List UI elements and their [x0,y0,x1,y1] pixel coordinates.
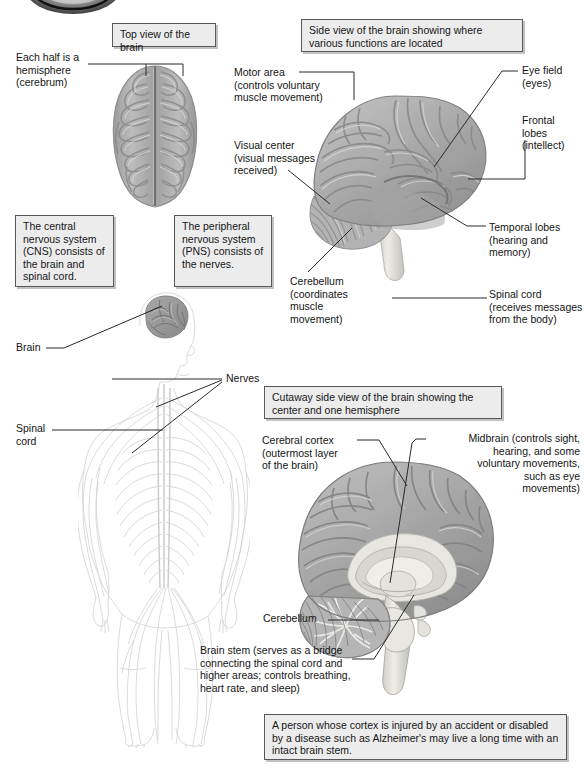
label-brain-stem: Brain stem (serves as a bridge connectin… [200,644,380,694]
leader-brain-body [46,304,162,350]
info-box-pns: The peripheral nervous system (PNS) cons… [174,215,272,287]
brain-top-view-illustration [105,62,205,210]
title-box-side-view: Side view of the brain showing where var… [301,19,523,52]
leader-temporal-lobes [421,198,487,228]
title-box-cutaway-view: Cutaway side view of the brain showing t… [264,386,502,419]
label-spinal-cord-body: Spinal cord [16,422,66,447]
label-temporal-lobes: Temporal lobes (hearing and memory) [489,221,581,259]
label-eye-field: Eye field (eyes) [522,64,582,89]
page-emblem [22,0,124,20]
label-cerebellum-cutaway: Cerebellum [263,612,333,625]
label-midbrain: Midbrain (controls sight, hearing, and s… [420,432,580,495]
leader-cerebellum-side [308,228,354,274]
info-box-footnote: A person whose cortex is injured by an a… [264,714,567,760]
leader-spinal-cord-body [52,429,164,431]
label-nerves: Nerves [226,372,282,385]
leader-nerves [112,377,224,455]
label-frontal-lobes: Frontal lobes (intellect) [522,114,582,152]
leader-hemisphere [88,58,208,80]
label-visual-center: Visual center (visual messages received) [234,139,334,177]
label-brain-body: Brain [16,341,60,354]
label-cerebellum-side: Cerebellum (coordinates muscle movement) [290,275,386,325]
label-spinal-cord-side: Spinal cord (receives messages from the … [489,288,584,326]
label-hemisphere: Each half is a hemisphere (cerebrum) [16,51,102,89]
label-cerebral-cortex: Cerebral cortex (outermost layer of the … [262,434,366,472]
info-box-cns: The central nervous system (CNS) consist… [15,215,114,287]
leader-spinal-cord-side [392,297,488,299]
title-box-top-view: Top view of the brain [112,23,216,47]
leader-eye-field [434,71,518,169]
label-motor-area: Motor area (controls voluntary muscle mo… [234,66,334,104]
leader-frontal-lobes [468,178,526,180]
